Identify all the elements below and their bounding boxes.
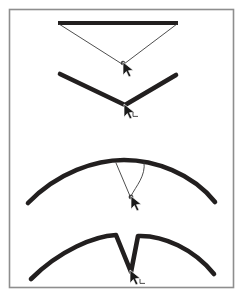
mouse-pointer-arrow-icon[interactable] [130,270,140,285]
panel-3-arc-drag-start [28,160,215,211]
rubber-band-guide-line-straight [116,163,130,196]
smooth-arc-shape[interactable] [28,160,215,203]
panel-1-straight-line-drag-start [58,23,178,77]
panel-4-arc-drag-result [31,235,214,285]
drop-corner-marker-icon [140,279,145,283]
rubber-band-guide-line-curved [131,162,144,196]
panel-2-straight-line-drag-result [60,74,176,119]
rubber-band-guide-line-right [124,24,177,64]
curve-editing-diagram [0,0,247,299]
mouse-pointer-arrow-icon[interactable] [131,196,141,211]
drop-corner-marker-icon [133,112,138,116]
v-polyline-shape[interactable] [60,74,176,105]
rubber-band-guide-line-left [59,24,122,64]
mouse-pointer-arrow-icon[interactable] [123,62,133,77]
cusped-arc-shape[interactable] [31,235,214,279]
figure-canvas: Curve drag-editing sequence Four stacked… [0,0,247,299]
